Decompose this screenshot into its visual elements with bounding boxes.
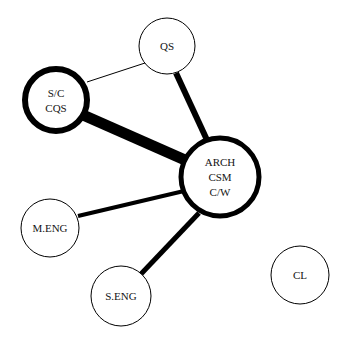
edge-sc-cqs-to-qs[interactable]	[87, 63, 145, 82]
node-sc-cqs-label-line1: S/C	[48, 87, 65, 99]
edge-s-eng-to-arch[interactable]	[141, 213, 199, 274]
edge-qs-to-arch[interactable]	[176, 73, 207, 140]
network-diagram: QS S/C CQS ARCH CSM C/W M.ENG	[0, 0, 343, 343]
node-cl[interactable]: CL	[271, 246, 329, 304]
node-arch-csm-cw-label-line3: C/W	[210, 186, 231, 198]
node-sc-cqs-circle[interactable]	[25, 69, 87, 131]
edge-sc-cqs-to-arch[interactable]	[83, 115, 185, 160]
node-arch-csm-cw-label-line1: ARCH	[205, 156, 236, 168]
edge-m-eng-to-arch[interactable]	[78, 191, 184, 216]
node-arch-csm-cw-label-line2: CSM	[208, 171, 231, 183]
node-m-eng[interactable]: M.ENG	[21, 199, 79, 257]
graph-canvas: QS S/C CQS ARCH CSM C/W M.ENG	[0, 0, 343, 343]
node-qs[interactable]: QS	[139, 18, 195, 74]
node-arch-csm-cw[interactable]: ARCH CSM C/W	[181, 138, 259, 216]
node-layer: QS S/C CQS ARCH CSM C/W M.ENG	[21, 18, 329, 326]
node-s-eng[interactable]: S.ENG	[91, 266, 151, 326]
node-sc-cqs[interactable]: S/C CQS	[25, 69, 87, 131]
node-cl-label: CL	[293, 269, 307, 281]
node-sc-cqs-label-line2: CQS	[45, 102, 66, 114]
node-m-eng-label: M.ENG	[32, 222, 67, 234]
node-s-eng-label: S.ENG	[105, 290, 137, 302]
node-qs-label: QS	[160, 40, 174, 52]
